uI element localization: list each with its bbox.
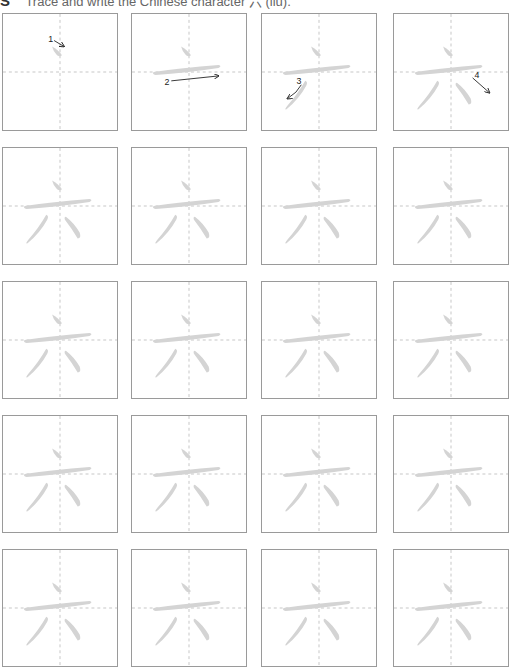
character-trace-icon xyxy=(262,550,376,666)
character-trace-icon xyxy=(132,282,246,398)
character-trace-icon xyxy=(394,282,508,398)
practice-box[interactable] xyxy=(2,549,118,667)
practice-box[interactable] xyxy=(261,147,377,265)
character-trace-icon xyxy=(262,416,376,532)
character-trace-icon: 2 xyxy=(132,14,246,130)
practice-box[interactable] xyxy=(261,281,377,399)
practice-box[interactable] xyxy=(261,549,377,667)
character-trace-icon xyxy=(262,148,376,264)
practice-box[interactable] xyxy=(2,147,118,265)
practice-box[interactable] xyxy=(131,281,247,399)
stroke-order-box-1[interactable]: 1 xyxy=(2,13,118,131)
character-trace-icon xyxy=(132,416,246,532)
character-trace-icon: 4 xyxy=(394,14,508,130)
stroke-order-box-2[interactable]: 2 xyxy=(131,13,247,131)
stroke-order-box-4[interactable]: 4 xyxy=(393,13,509,131)
practice-box[interactable] xyxy=(393,415,509,533)
practice-box[interactable] xyxy=(131,147,247,265)
character-trace-icon xyxy=(132,550,246,666)
character-trace-icon xyxy=(3,148,117,264)
character-trace-icon: 3 xyxy=(262,14,376,130)
practice-grid: 1234 xyxy=(0,0,511,670)
character-trace-icon xyxy=(394,148,508,264)
stroke-order-box-3[interactable]: 3 xyxy=(261,13,377,131)
character-trace-icon xyxy=(3,282,117,398)
svg-text:3: 3 xyxy=(296,76,301,86)
practice-box[interactable] xyxy=(2,281,118,399)
practice-box[interactable] xyxy=(131,549,247,667)
character-trace-icon xyxy=(262,282,376,398)
character-trace-icon xyxy=(3,416,117,532)
practice-box[interactable] xyxy=(393,147,509,265)
character-trace-icon xyxy=(394,550,508,666)
character-trace-icon xyxy=(394,416,508,532)
practice-box[interactable] xyxy=(131,415,247,533)
character-trace-icon: 1 xyxy=(3,14,117,130)
character-trace-icon xyxy=(132,148,246,264)
svg-text:2: 2 xyxy=(164,77,169,87)
svg-text:4: 4 xyxy=(475,70,480,80)
practice-box[interactable] xyxy=(2,415,118,533)
svg-text:1: 1 xyxy=(48,34,53,44)
practice-box[interactable] xyxy=(393,281,509,399)
character-trace-icon xyxy=(3,550,117,666)
practice-box[interactable] xyxy=(261,415,377,533)
practice-box[interactable] xyxy=(393,549,509,667)
